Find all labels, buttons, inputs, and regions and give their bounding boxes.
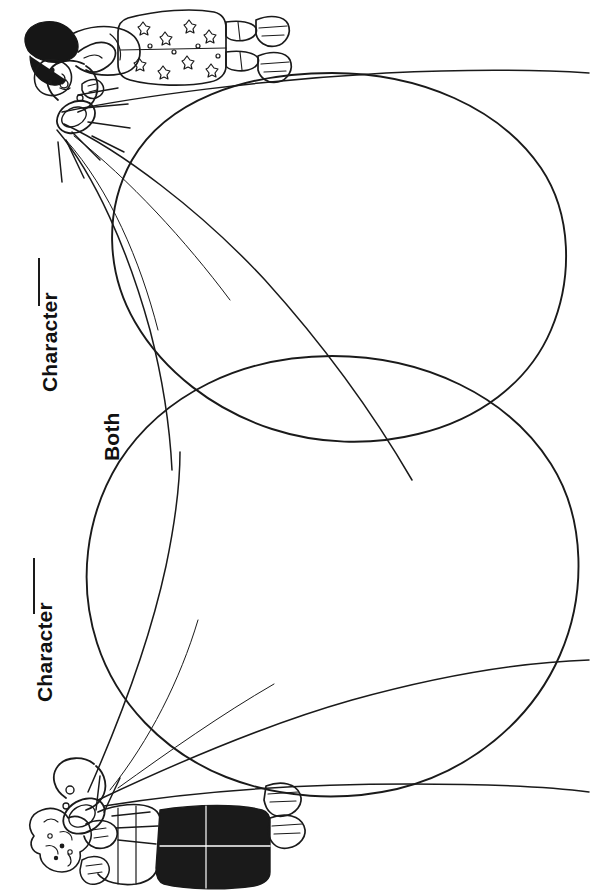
label-character-bottom: Character: [33, 602, 57, 702]
label-both: Both: [100, 412, 124, 461]
boy-with-flashlight-illustration: [0, 0, 591, 894]
boy-pants: [156, 806, 270, 889]
boy-sneakers: [264, 783, 305, 848]
boy-face: [54, 844, 71, 866]
worksheet-page: Character Both Character: [0, 0, 591, 894]
label-character-top: Character: [38, 292, 62, 392]
flashlight-beam-bottom: [88, 452, 589, 806]
boy-shirt: [98, 805, 161, 885]
blank-line-character-bottom[interactable]: [33, 558, 35, 614]
blank-line-character-top[interactable]: [38, 258, 40, 306]
